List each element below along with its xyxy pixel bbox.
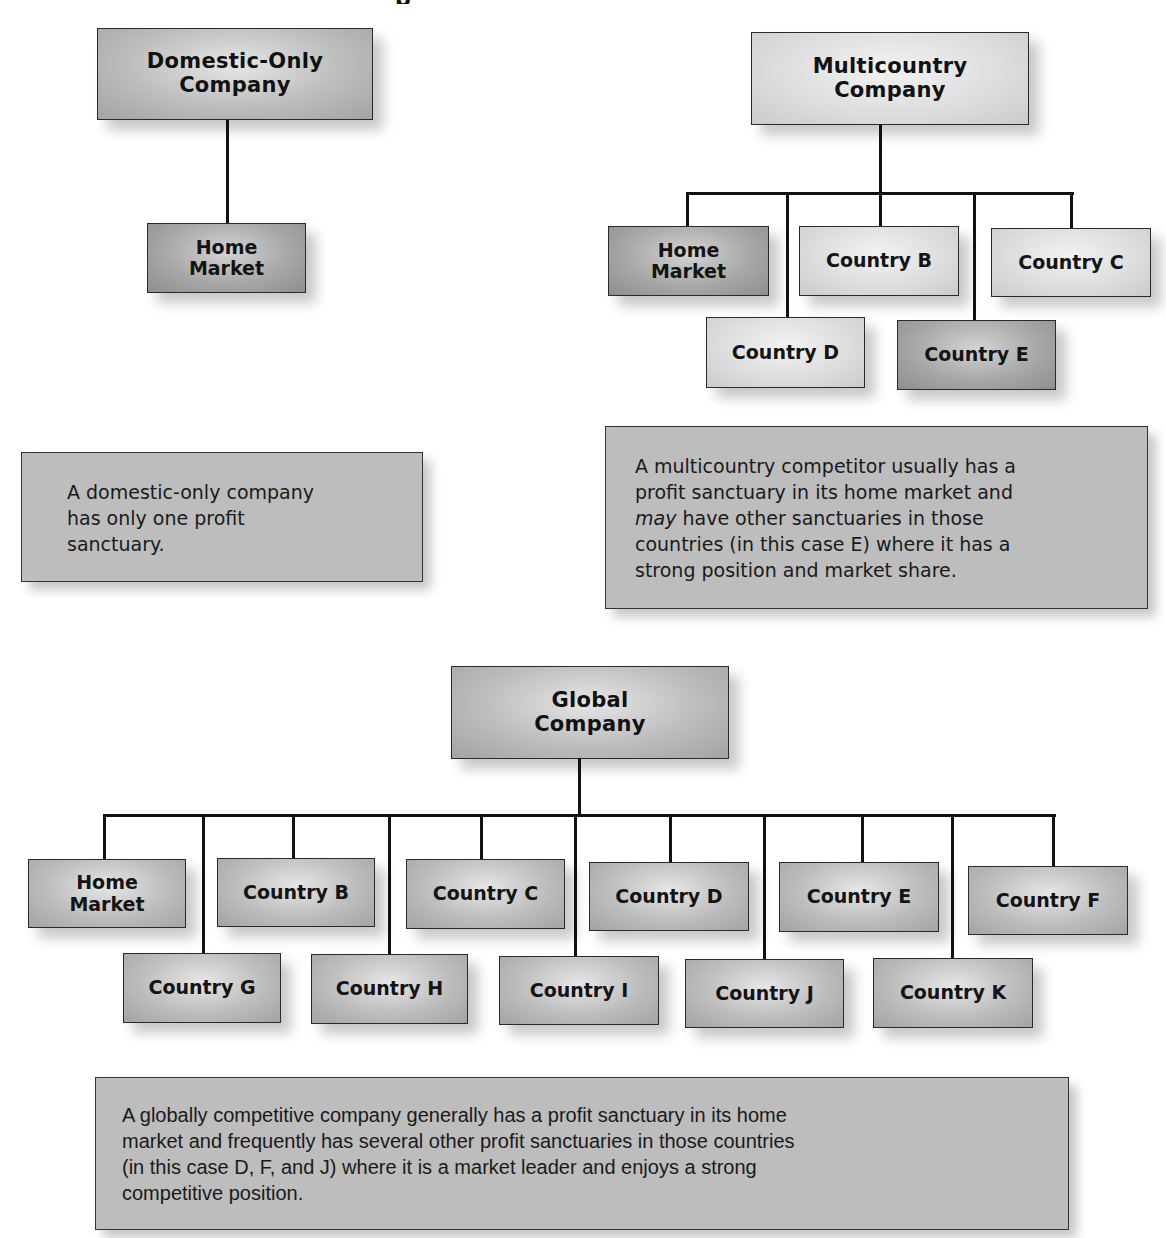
node-label-line2: Market [69,894,144,915]
global-drop-i [574,814,577,957]
global-drop-g [202,814,205,954]
node-label: Country F [996,890,1100,911]
domestic-desc-line: A domestic-only company [67,479,314,505]
global-country-b-node: Country B [217,858,375,927]
line3-rest: have other sanctuaries in those [676,507,983,529]
global-country-i-node: Country I [499,956,659,1025]
global-home-market-node: Home Market [28,859,186,928]
domestic-header-line2: Company [147,74,323,98]
multicountry-drop-c [1070,192,1073,229]
global-desc-line: competitive position. [122,1180,795,1206]
multicountry-header-line1: Multicountry [813,55,968,79]
node-label: Country D [615,886,722,907]
global-drop-d [669,814,672,863]
global-drop-b [292,814,295,859]
domestic-description-box: A domestic-only company has only one pro… [21,452,423,582]
global-desc-line: (in this case D, F, and J) where it is a… [122,1154,795,1180]
multicountry-drop-e [973,192,976,321]
node-label: Country C [433,883,538,904]
global-country-k-node: Country K [873,958,1033,1028]
cut-off-title-fragment: p [395,0,415,4]
global-header-line1: Global [534,689,646,713]
multicountry-country-d-node: Country D [706,317,865,388]
node-label-line2: Market [651,261,726,282]
global-country-e-node: Country E [779,862,939,932]
domestic-company-header: Domestic-Only Company [97,28,373,120]
multicountry-desc-line: strong position and market share. [635,557,1016,583]
node-label: Country J [715,983,814,1004]
global-desc-line: A globally competitive company generally… [122,1102,795,1128]
global-drop-f [1052,814,1055,867]
multicountry-drop-d [786,192,789,318]
node-label: Country E [924,344,1028,365]
node-label: Country B [826,250,932,271]
domestic-desc-line: sanctuary. [67,531,314,557]
multicountry-company-header: Multicountry Company [751,32,1029,125]
multicountry-desc-line: may have other sanctuaries in those [635,505,1016,531]
multicountry-home-market-node: Home Market [608,226,769,296]
domestic-connector [226,120,229,224]
multicountry-description-box: A multicountry competitor usually has a … [605,426,1148,609]
multicountry-country-e-node: Country E [897,320,1056,390]
italic-may: may [635,507,676,529]
global-drop-h [388,814,391,955]
node-label-line1: Home [69,872,144,893]
node-label-line1: Home [189,237,264,258]
multicountry-desc-line: A multicountry competitor usually has a [635,453,1016,479]
global-bus [103,814,1056,817]
global-country-d-node: Country D [589,862,749,931]
global-country-g-node: Country G [123,953,281,1023]
global-country-h-node: Country H [311,954,468,1024]
node-label: Country G [148,977,255,998]
global-drop-c [480,814,483,860]
domestic-header-line1: Domestic-Only [147,50,323,74]
multicountry-desc-line: profit sanctuary in its home market and [635,479,1016,505]
global-header-line2: Company [534,713,646,737]
node-label: Country E [807,886,911,907]
multicountry-header-line2: Company [813,79,968,103]
multicountry-drop-b [879,192,882,227]
node-label-line2: Market [189,258,264,279]
multicountry-stem [879,124,882,195]
global-country-j-node: Country J [685,959,844,1028]
multicountry-desc-line: countries (in this case E) where it has … [635,531,1016,557]
global-drop-home [103,814,106,860]
node-label: Country I [530,980,629,1001]
global-drop-k [951,814,954,959]
global-stem [578,758,581,817]
global-description-box: A globally competitive company generally… [95,1077,1069,1230]
global-country-c-node: Country C [406,859,565,929]
multicountry-country-b-node: Country B [799,226,959,296]
global-drop-j [763,814,766,960]
global-country-f-node: Country F [968,866,1128,935]
node-label: Country D [732,342,839,363]
domestic-home-market-node: Home Market [147,223,306,293]
node-label: Country H [336,978,443,999]
multicountry-drop-home [686,192,689,227]
multicountry-country-c-node: Country C [991,228,1151,297]
node-label: Country K [900,982,1006,1003]
node-label: Country B [243,882,349,903]
node-label: Country C [1018,252,1123,273]
global-drop-e [861,814,864,863]
global-desc-line: market and frequently has several other … [122,1128,795,1154]
global-company-header: Global Company [451,666,729,759]
domestic-desc-line: has only one profit [67,505,314,531]
node-label-line1: Home [651,240,726,261]
